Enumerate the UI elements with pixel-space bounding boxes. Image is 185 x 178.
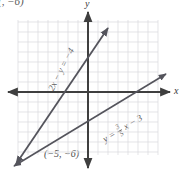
graph-canvas <box>0 0 185 178</box>
line-2x-minus-y-equals-minus-4 <box>16 28 108 164</box>
graph-figure: (, −6) y x (−5, −6) 2x − y = −4 y = 3 5 … <box>0 0 185 178</box>
